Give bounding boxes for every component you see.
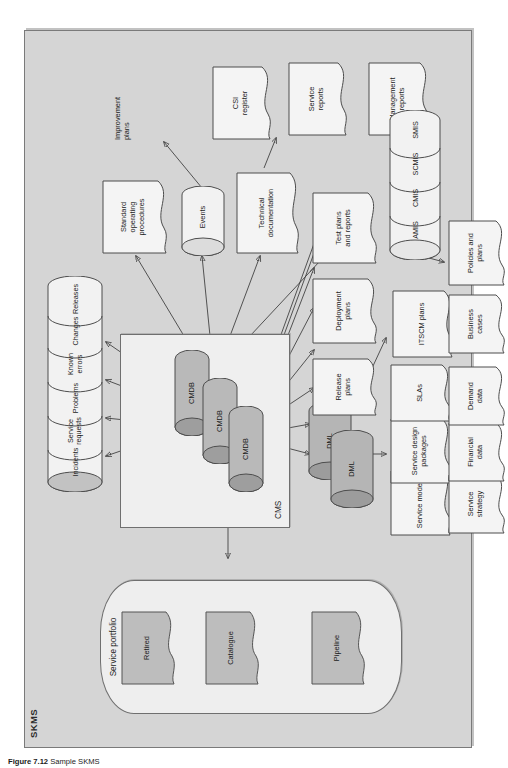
figure-caption: Figure 7.12 Sample SKMS — [8, 757, 100, 766]
document-label: Servicereports — [308, 60, 326, 138]
record-segment-label: Known errors — [66, 348, 84, 380]
dml-cylinder-1[interactable]: DML — [326, 430, 378, 508]
document-business-cases[interactable]: Businesscases — [446, 292, 508, 356]
skms-diagram-canvas: SKMS — [14, 14, 484, 754]
document-label: Releaseplans — [335, 356, 353, 418]
service-portfolio-item-catalogue[interactable]: Catalogue — [204, 610, 260, 686]
document-test-plans-and-reports[interactable]: Test plansand reports — [310, 190, 380, 266]
document-label: Standardoperatingprocedures — [120, 178, 146, 256]
document-label: Policies andplans — [467, 218, 485, 288]
document-slas[interactable]: SLAs — [388, 362, 454, 424]
document-technical-documentation[interactable]: Technicaldocumentation — [234, 170, 302, 256]
document-label: Technicaldocumentation — [258, 170, 276, 256]
mis-segment-label: AMIS — [410, 221, 419, 239]
service-portfolio-title: Service portfolio — [109, 581, 118, 713]
dml-label: DML — [347, 430, 356, 508]
document-label: Businesscases — [467, 292, 485, 356]
document-label: Financialdata — [467, 420, 485, 484]
cms-title: CMS — [274, 501, 283, 519]
document-release-plans[interactable]: Releaseplans — [310, 356, 380, 418]
mis-segment-label: SMIS — [410, 121, 419, 139]
document-label: ITSCM plans — [418, 288, 427, 360]
service-portfolio-item-label: Pipeline — [333, 610, 342, 686]
record-segment-label: Releases — [70, 284, 79, 314]
document-demand-data[interactable]: Demanddata — [446, 364, 508, 428]
record-segment-label: Changes — [70, 317, 79, 346]
service-portfolio-item-retired[interactable]: Retired — [120, 610, 176, 686]
document-label: Demanddata — [467, 364, 485, 428]
document-label: Service designpackages — [411, 416, 429, 486]
events-cylinder[interactable]: Events — [178, 186, 228, 256]
mis-segment-label: CMIS — [410, 189, 419, 207]
document-service-reports[interactable]: Servicereports — [286, 60, 350, 138]
service-records-cylinder-stack[interactable]: Incidents Service requests Problems Know… — [44, 276, 106, 492]
service-portfolio-item-label: Retired — [143, 610, 152, 686]
record-segment-label: Problems — [70, 383, 79, 413]
mis-cylinder-stack[interactable]: AMIS CMIS SCMIS SMIS — [386, 110, 444, 260]
cmdb-cylinder-1[interactable]: CMDB — [220, 406, 272, 492]
document-label: SLAs — [416, 362, 425, 424]
figure-caption-number: Figure 7.12 — [8, 757, 48, 766]
record-segment-label: Incidents — [70, 448, 79, 477]
document-financial-data[interactable]: Financialdata — [446, 420, 508, 484]
document-policies-and-plans[interactable]: Policies andplans — [446, 218, 508, 288]
service-portfolio-item-label: Catalogue — [227, 610, 236, 686]
document-label: Deploymentplans — [335, 276, 353, 346]
document-label: Improvementplans — [114, 138, 132, 142]
document-standard-operating-procedures[interactable]: Standardoperatingprocedures — [100, 178, 170, 256]
events-label: Events — [198, 186, 207, 256]
document-label: Test plansand reports — [335, 190, 353, 266]
skms-frame-label: SKMS — [28, 709, 39, 738]
document-service-design-packages[interactable]: Service designpackages — [388, 416, 454, 486]
document-csi-register[interactable]: CSIregister — [210, 64, 274, 142]
document-deployment-plans[interactable]: Deploymentplans — [310, 276, 380, 346]
cmdb-label: CMDB — [241, 406, 250, 492]
service-portfolio-item-pipeline[interactable]: Pipeline — [310, 610, 366, 686]
document-label: CSIregister — [232, 64, 250, 142]
figure-caption-text: Sample SKMS — [50, 757, 99, 766]
record-segment-label: Service requests — [66, 414, 83, 448]
mis-segment-label: SCMIS — [410, 153, 419, 176]
